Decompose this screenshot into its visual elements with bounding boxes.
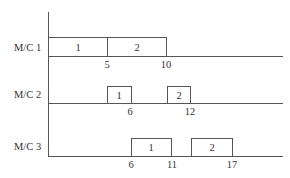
mc3-job2-label: 2 [209,142,214,153]
tick-6-mc2: 6 [127,106,132,117]
mc3-job1-label: 1 [148,142,153,153]
gantt-chart: M/C 1 M/C 2 M/C 3 1 2 1 2 1 2 5 10 6 12 … [0,0,290,178]
mc2-job2-label: 2 [176,90,181,101]
mc1-job1-label: 1 [75,42,80,53]
row-label-mc3: M/C 3 [14,141,41,152]
tick-17: 17 [227,159,238,170]
tick-5: 5 [104,59,109,70]
tick-11: 11 [167,159,177,170]
tick-12: 12 [185,106,196,117]
row-label-mc2: M/C 2 [14,89,41,100]
mc2-job1-label: 1 [116,90,121,101]
mc1-job2-label: 2 [134,42,139,53]
row-label-mc1: M/C 1 [14,42,41,53]
tick-10: 10 [161,59,172,70]
tick-6-mc3: 6 [128,159,133,170]
